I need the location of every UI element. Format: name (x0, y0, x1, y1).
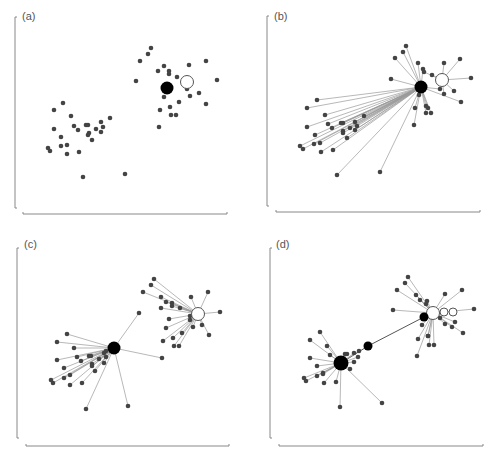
black-hub-node (108, 342, 121, 355)
white-hub-node (436, 74, 449, 87)
edges (300, 46, 471, 175)
panel-label: (d) (276, 238, 289, 250)
panel-label: (b) (274, 10, 287, 22)
panel-label: (a) (22, 10, 35, 22)
panel-d: (d) (246, 228, 492, 456)
white-hub-node (181, 76, 194, 89)
black-hub-node (161, 82, 174, 95)
edges (304, 277, 474, 407)
black-hub-node (415, 81, 428, 94)
white-hub-node (440, 308, 448, 316)
black-hub-node (334, 356, 349, 371)
white-hub-node (449, 308, 457, 316)
panel-b: (b) (246, 0, 492, 228)
panel-a: (a) (0, 0, 246, 228)
panel-plot (246, 228, 492, 456)
edges (51, 279, 220, 409)
panel-label: (c) (24, 238, 37, 250)
panel-plot (0, 228, 246, 456)
black-hub-node (420, 313, 429, 322)
panel-c: (c) (0, 228, 246, 456)
nodes (302, 275, 477, 410)
panel-plot (246, 0, 492, 228)
white-hub-node (192, 308, 205, 321)
axis-lines (270, 248, 483, 446)
axis-lines (15, 17, 227, 214)
black-hub-node (364, 342, 373, 351)
axis-lines (17, 248, 229, 446)
panel-plot (0, 0, 246, 228)
nodes (46, 46, 220, 180)
